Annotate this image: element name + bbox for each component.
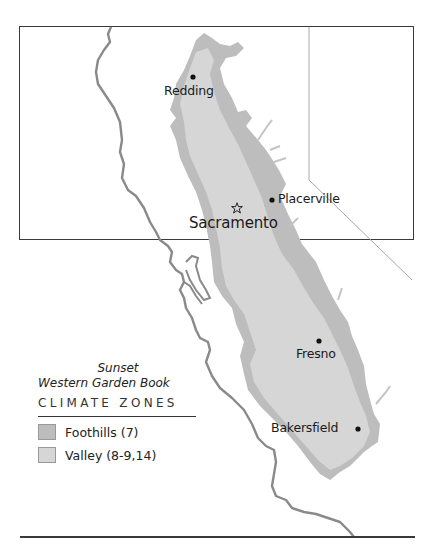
city-dot-icon xyxy=(190,74,196,80)
legend-divider xyxy=(38,416,196,417)
city-dot-icon xyxy=(355,426,361,432)
city-dot-icon xyxy=(269,197,275,203)
map-legend: Sunset Western Garden Book CLIMATE ZONES… xyxy=(38,361,198,463)
state-border xyxy=(309,27,412,280)
foothills-swatch xyxy=(38,424,56,440)
city-label: Sacramento xyxy=(189,214,278,232)
san-francisco-bay xyxy=(184,256,210,304)
city-label: Redding xyxy=(164,83,214,98)
capital-star-icon xyxy=(231,202,243,214)
city-label: Placerville xyxy=(278,191,340,206)
legend-book-title: Western Garden Book xyxy=(38,376,198,390)
city-label: Bakersfield xyxy=(271,420,338,435)
legend-item-label: Valley (8-9,14) xyxy=(65,448,156,463)
legend-item-label: Foothills (7) xyxy=(65,425,138,440)
city-dot-icon xyxy=(316,338,322,344)
legend-item-foothills: Foothills (7) xyxy=(38,424,198,440)
central-valley-region xyxy=(170,33,390,480)
bottom-divider xyxy=(20,536,415,538)
california-map xyxy=(0,0,435,552)
valley-swatch xyxy=(38,447,56,463)
valley-zone xyxy=(180,48,370,470)
city-label: Fresno xyxy=(296,346,336,361)
legend-heading: CLIMATE ZONES xyxy=(38,396,198,410)
legend-publisher: Sunset xyxy=(38,361,198,375)
legend-item-valley: Valley (8-9,14) xyxy=(38,447,198,463)
